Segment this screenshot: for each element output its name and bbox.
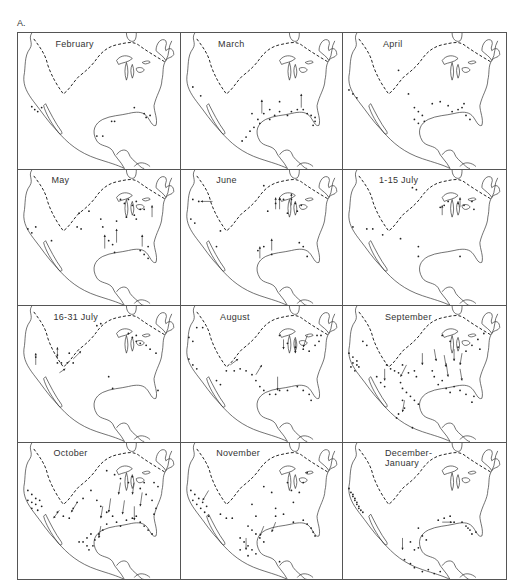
observation-dot	[263, 113, 265, 115]
observation-dot	[477, 339, 479, 341]
observation-dot	[432, 103, 434, 105]
north-america-map	[18, 443, 180, 580]
observation-dot	[135, 515, 137, 517]
hudson-bay	[452, 443, 462, 451]
observation-dot	[463, 103, 465, 105]
observation-dot	[255, 552, 257, 554]
great-lakes	[443, 465, 477, 490]
hudson-bay	[289, 170, 299, 178]
observation-dot	[314, 344, 316, 346]
observation-dot	[461, 107, 463, 109]
observation-dot	[78, 212, 80, 214]
observation-dot	[151, 533, 153, 535]
observation-dot	[268, 393, 270, 395]
yucatan	[117, 150, 145, 168]
observation-dot	[151, 499, 153, 501]
observation-dot	[352, 362, 354, 364]
observation-dot	[292, 521, 294, 523]
arrowhead-icon	[104, 234, 106, 236]
observation-dot	[80, 228, 82, 230]
observation-dot	[112, 515, 114, 517]
observation-dot	[100, 323, 102, 325]
great-lakes	[117, 329, 151, 353]
yucatan	[117, 423, 145, 441]
observation-dot	[205, 505, 207, 507]
observation-dot	[306, 471, 308, 473]
observation-dot	[294, 202, 296, 204]
observation-dot	[278, 101, 280, 103]
observation-dot	[298, 241, 300, 243]
observation-dot	[274, 515, 276, 517]
arrowhead-icon	[453, 359, 455, 361]
observation-dots	[27, 469, 159, 550]
observation-dot	[448, 200, 450, 202]
observation-dots	[352, 186, 475, 256]
observation-dot	[278, 390, 280, 392]
panel-title: June	[216, 175, 237, 185]
observation-dot	[300, 204, 302, 206]
observation-dot	[268, 119, 270, 121]
observation-dot	[131, 204, 133, 206]
observation-dot	[416, 376, 418, 378]
observation-dot	[459, 390, 461, 392]
observation-dot	[350, 491, 352, 493]
observation-dot	[362, 340, 364, 342]
observation-dot	[290, 111, 292, 113]
month-map-panel-august: August	[181, 306, 344, 443]
observation-dot	[356, 503, 358, 505]
observation-dot	[114, 251, 116, 253]
observation-dot	[102, 529, 104, 531]
observation-dot	[72, 362, 74, 364]
dashed-range-boundary	[196, 312, 328, 367]
observation-dot	[414, 370, 416, 372]
observation-dot	[102, 226, 104, 228]
observation-dot	[251, 113, 253, 115]
observation-dot	[404, 407, 406, 409]
panel-title: February	[55, 39, 93, 49]
observation-dot	[219, 229, 221, 231]
observation-dot	[114, 120, 116, 122]
month-map-panel-june: June	[181, 170, 344, 307]
observation-dot	[414, 566, 416, 568]
month-map-panel-may: May	[18, 170, 181, 307]
observation-dot	[94, 539, 96, 541]
observation-dot	[467, 527, 469, 529]
observation-dot	[286, 212, 288, 214]
observation-dot	[479, 348, 481, 350]
observation-dot	[384, 386, 386, 388]
observation-dot	[139, 249, 141, 251]
month-map-panel-october: October	[18, 443, 181, 580]
observation-dot	[188, 337, 190, 339]
observation-dot	[310, 527, 312, 529]
observation-dot	[215, 380, 217, 382]
observation-dot	[219, 513, 221, 515]
observation-dot	[112, 243, 114, 245]
observation-dot	[100, 218, 102, 220]
observation-dot	[475, 531, 477, 533]
observation-dot	[302, 390, 304, 392]
arrowhead-icon	[450, 520, 452, 522]
observation-dot	[282, 513, 284, 515]
observation-dot	[149, 348, 151, 350]
observation-dot	[88, 210, 90, 212]
observation-dot	[82, 497, 84, 499]
observation-dot	[356, 364, 358, 366]
observation-dot	[268, 109, 270, 111]
observation-dot	[149, 115, 151, 117]
movement-arrows	[260, 94, 302, 114]
observation-dot	[128, 333, 130, 335]
hudson-bay	[126, 33, 136, 41]
observation-dot	[398, 413, 400, 415]
observation-dot	[465, 115, 467, 117]
observation-dot	[366, 228, 368, 230]
observation-dot	[314, 535, 316, 537]
observation-dot	[253, 126, 255, 128]
north-america-map	[343, 33, 506, 169]
observation-dot	[410, 541, 412, 543]
observation-dot	[457, 346, 459, 348]
observation-dot	[120, 198, 122, 200]
observation-dot	[418, 527, 420, 529]
observation-dot	[352, 93, 354, 95]
observation-dot	[239, 537, 241, 539]
observation-dot	[352, 493, 354, 495]
